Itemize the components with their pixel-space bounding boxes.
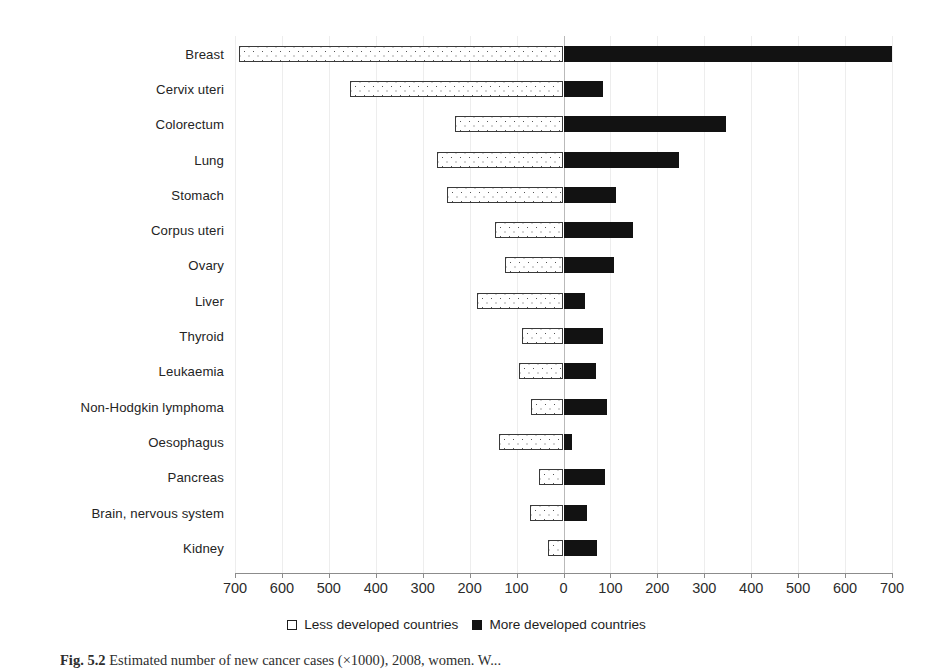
figure-caption: Fig. 5.2 Estimated number of new cancer … (60, 652, 920, 669)
bar-less-developed (447, 187, 564, 203)
category-label: Colorectum (156, 117, 224, 132)
plot-area: BreastCervix uteriColorectumLungStomachC… (235, 36, 892, 573)
chart-category-row: Breast (235, 36, 892, 71)
bar-more-developed (564, 293, 585, 309)
bar-less-developed (437, 152, 564, 168)
x-axis-tick (892, 573, 893, 578)
x-axis-tick (282, 573, 283, 578)
category-label: Kidney (183, 540, 224, 555)
chart-category-row: Non-Hodgkin lymphoma (235, 389, 892, 424)
bar-more-developed (564, 152, 680, 168)
x-axis-tick-label: 200 (458, 580, 482, 596)
chart-category-row: Thyroid (235, 318, 892, 353)
bar-more-developed (564, 469, 606, 485)
chart-legend: Less developed countries More developed … (0, 617, 933, 632)
x-axis-tick (235, 573, 236, 578)
bar-less-developed (519, 363, 563, 379)
bar-more-developed (564, 505, 588, 521)
figure-number: Fig. 5.2 (60, 652, 106, 668)
chart-category-row: Pancreas (235, 460, 892, 495)
bar-less-developed (548, 540, 564, 556)
x-axis-tick-label: 400 (739, 580, 763, 596)
bar-less-developed (455, 116, 564, 132)
x-axis-tick (564, 573, 565, 578)
x-axis-tick-label: 200 (645, 580, 669, 596)
legend-label-less-developed: Less developed countries (304, 617, 458, 632)
chart-category-row: Oesophagus (235, 424, 892, 459)
x-axis-tick-label: 600 (270, 580, 294, 596)
legend-label-more-developed: More developed countries (489, 617, 645, 632)
x-axis-tick (470, 573, 471, 578)
x-axis-tick-label: 700 (223, 580, 247, 596)
x-axis-tick (610, 573, 611, 578)
bar-more-developed (564, 46, 893, 62)
category-label: Ovary (188, 258, 224, 273)
x-axis-tick-label: 700 (880, 580, 904, 596)
x-axis-tick (517, 573, 518, 578)
x-axis-tick (423, 573, 424, 578)
x-axis-tick (376, 573, 377, 578)
bar-less-developed (531, 399, 564, 415)
filled-square-icon (472, 620, 482, 630)
chart-category-row: Ovary (235, 248, 892, 283)
x-axis-tick (845, 573, 846, 578)
chart-category-row: Liver (235, 283, 892, 318)
x-axis-tick (657, 573, 658, 578)
bar-more-developed (564, 363, 597, 379)
category-label: Brain, nervous system (91, 505, 224, 520)
bar-more-developed (564, 434, 573, 450)
bar-more-developed (564, 116, 727, 132)
bar-less-developed (499, 434, 564, 450)
x-axis-tick-label: 100 (598, 580, 622, 596)
category-label: Corpus uteri (151, 223, 224, 238)
chart-category-row: Stomach (235, 177, 892, 212)
category-label: Cervix uteri (156, 81, 224, 96)
x-axis-tick-label: 600 (833, 580, 857, 596)
x-axis-tick-label: 500 (786, 580, 810, 596)
bar-less-developed (530, 505, 564, 521)
x-axis-tick-label: 500 (317, 580, 341, 596)
bar-less-developed (350, 81, 564, 97)
bar-less-developed (477, 293, 564, 309)
category-label: Non-Hodgkin lymphoma (81, 399, 224, 414)
category-label: Thyroid (179, 329, 224, 344)
category-label: Lung (194, 152, 224, 167)
bar-more-developed (564, 187, 616, 203)
category-label: Leukaemia (159, 364, 224, 379)
category-label: Liver (195, 293, 224, 308)
x-axis-tick (751, 573, 752, 578)
bar-more-developed (564, 257, 614, 273)
bar-more-developed (564, 328, 604, 344)
x-axis-tick-label: 0 (559, 580, 567, 596)
category-label: Breast (185, 46, 224, 61)
x-axis-tick (329, 573, 330, 578)
bar-more-developed (564, 222, 634, 238)
category-label: Stomach (171, 187, 224, 202)
x-axis-tick-label: 400 (364, 580, 388, 596)
chart-category-row: Leukaemia (235, 354, 892, 389)
chart-category-row: Kidney (235, 530, 892, 565)
bar-less-developed (505, 257, 564, 273)
bar-less-developed (239, 46, 563, 62)
bar-more-developed (564, 81, 604, 97)
open-square-icon (287, 620, 297, 630)
figure-caption-text: Estimated number of new cancer cases (×1… (109, 652, 501, 668)
chart-category-row: Cervix uteri (235, 71, 892, 106)
chart-category-row: Lung (235, 142, 892, 177)
category-label: Pancreas (167, 470, 224, 485)
bar-less-developed (539, 469, 564, 485)
category-label: Oesophagus (148, 434, 224, 449)
x-axis-tick-label: 300 (411, 580, 435, 596)
legend-item-more-developed: More developed countries (472, 617, 645, 632)
bar-more-developed (564, 540, 598, 556)
chart-category-row: Colorectum (235, 107, 892, 142)
bar-more-developed (564, 399, 607, 415)
chart-category-row: Brain, nervous system (235, 495, 892, 530)
x-axis-tick-label: 100 (504, 580, 528, 596)
bar-less-developed (495, 222, 563, 238)
gridline (892, 36, 893, 573)
bar-less-developed (522, 328, 564, 344)
x-axis-tick-label: 300 (692, 580, 716, 596)
x-axis-tick (798, 573, 799, 578)
